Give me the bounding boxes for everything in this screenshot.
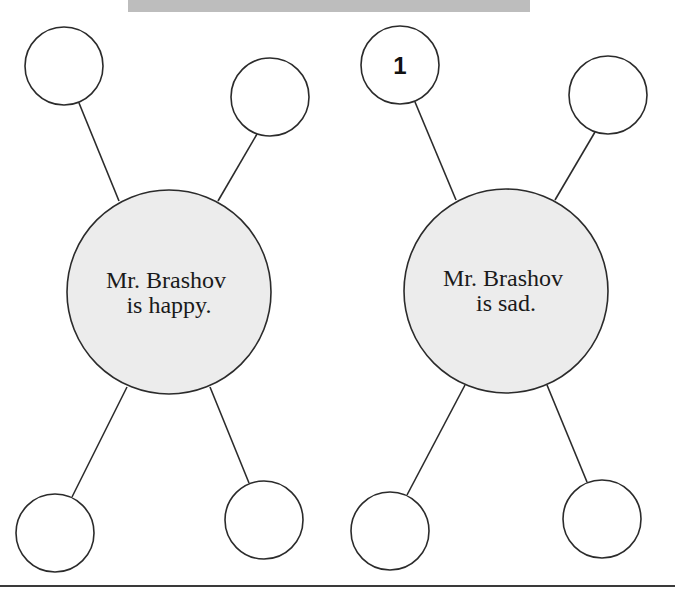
right-diagram: Mr. Brashov is sad. 1 [351, 26, 647, 570]
leaf-bubble[interactable] [16, 494, 94, 572]
connector-line [79, 103, 119, 201]
connector-line [415, 102, 456, 200]
leaf-number-label: 1 [393, 52, 406, 79]
center-label-line2: is sad. [476, 290, 536, 316]
leaf-bubble[interactable] [25, 27, 103, 105]
bottom-divider [0, 585, 675, 587]
connector-line [547, 385, 587, 482]
center-label-line1: Mr. Brashov [443, 265, 563, 291]
leaf-bubble[interactable] [225, 481, 303, 559]
connector-line [72, 387, 127, 497]
connector-line [407, 385, 465, 495]
connector-line [218, 134, 257, 201]
center-label-line1: Mr. Brashov [106, 267, 226, 293]
center-label-line2: is happy. [126, 292, 211, 318]
diagram-canvas: Mr. Brashov is happy. Mr. Brashov is sad… [0, 0, 675, 592]
web-diagram-worksheet: Mr. Brashov is happy. Mr. Brashov is sad… [0, 0, 675, 592]
leaf-bubble[interactable] [231, 58, 309, 136]
connector-line [555, 132, 595, 200]
leaf-bubble[interactable] [563, 480, 641, 558]
connector-line [210, 387, 249, 483]
leaf-bubble[interactable] [569, 56, 647, 134]
left-diagram: Mr. Brashov is happy. [16, 27, 309, 572]
leaf-bubble[interactable] [351, 492, 429, 570]
